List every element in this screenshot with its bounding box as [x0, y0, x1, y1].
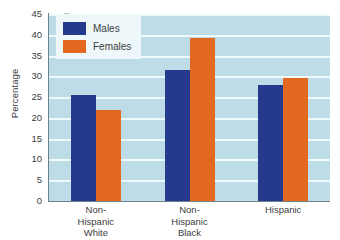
legend-item-males[interactable]: Males — [63, 22, 131, 35]
y-axis-title: Percentage — [9, 49, 20, 139]
bar-chart: Percentage 051015202530354045 Males Fema… — [0, 0, 340, 240]
legend-label-females: Females — [93, 41, 131, 52]
y-tick-label: 0 — [20, 196, 42, 206]
bar-females-2[interactable] — [283, 78, 308, 201]
x-axis-label-line: Hispanic — [171, 216, 207, 228]
y-tick-label: 25 — [20, 92, 42, 102]
y-tick-label: 15 — [20, 134, 42, 144]
y-tick-label: 35 — [20, 51, 42, 61]
y-tick-label: 20 — [20, 113, 42, 123]
x-axis-line — [48, 201, 330, 202]
x-axis-label-line: White — [78, 227, 114, 239]
y-axis-ticks: 051015202530354045 — [20, 0, 42, 240]
y-tick-label: 5 — [20, 175, 42, 185]
bar-males-0[interactable] — [71, 95, 96, 201]
legend-label-males: Males — [93, 23, 120, 34]
bar-males-1[interactable] — [165, 70, 190, 201]
x-axis-label-line: Non- — [171, 204, 207, 216]
legend-item-females[interactable]: Females — [63, 40, 131, 53]
x-axis-label-line: Hispanic — [265, 204, 301, 216]
x-axis-labels: Non-HispanicWhiteNon-HispanicBlackHispan… — [49, 204, 330, 240]
x-axis-label-line: Hispanic — [78, 216, 114, 228]
females-swatch-icon — [63, 40, 86, 53]
bar-males-2[interactable] — [258, 85, 283, 201]
males-swatch-icon — [63, 22, 86, 35]
legend: Males Females — [56, 16, 141, 59]
bar-females-1[interactable] — [190, 38, 215, 201]
y-tick-label: 10 — [20, 155, 42, 165]
x-axis-label-0: Non-HispanicWhite — [78, 204, 114, 239]
y-tick-label: 30 — [20, 72, 42, 82]
y-tick-label: 40 — [20, 30, 42, 40]
bar-females-0[interactable] — [96, 110, 121, 201]
x-axis-label-1: Non-HispanicBlack — [171, 204, 207, 239]
x-axis-label-line: Black — [171, 227, 207, 239]
x-axis-label-2: Hispanic — [265, 204, 301, 216]
x-axis-label-line: Non- — [78, 204, 114, 216]
y-tick-label: 45 — [20, 9, 42, 19]
